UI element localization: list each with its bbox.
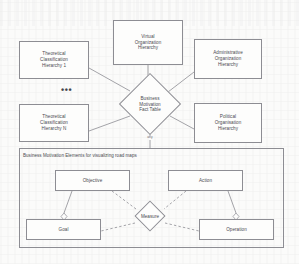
node-label: Objective — [83, 178, 103, 184]
node-label: Operation — [226, 227, 247, 233]
edge-tchn-to-fact — [89, 116, 130, 131]
node-label: VirtualOrganizationHierarchy — [135, 34, 162, 51]
edge-tch1-to-fact — [89, 68, 130, 91]
node-political-organisation-hierarchy[interactable]: PoliticalOrganisationHierarchy — [194, 103, 262, 143]
connector-cardinality-label: any — [142, 135, 158, 139]
node-theoretical-classification-hierarchy-1[interactable]: TheoreticalClassificationHierarchy 1 — [19, 41, 89, 79]
node-theoretical-classification-hierarchy-n[interactable]: TheoreticalClassificationHierarchy N — [19, 104, 89, 142]
node-action[interactable]: Action — [168, 170, 243, 191]
node-goal[interactable]: Goal — [26, 219, 101, 240]
edge-political-org-to-fact — [170, 116, 194, 129]
node-administrative-organization-hierarchy[interactable]: AdministrativeOrganizationHierarchy — [194, 39, 262, 79]
ellipsis-indicator: ••• — [61, 86, 72, 95]
node-operation[interactable]: Operation — [199, 219, 274, 240]
node-label: PoliticalOrganisationHierarchy — [215, 114, 242, 131]
container-title: Business Motivation Elements for visuali… — [23, 153, 137, 158]
node-objective[interactable]: Objective — [55, 170, 130, 191]
node-label: Action — [199, 178, 212, 184]
edge-admin-org-to-fact — [168, 72, 194, 92]
node-label: TheoreticalClassificationHierarchy N — [40, 114, 68, 131]
diagram-canvas: TheoreticalClassificationHierarchy 1 •••… — [0, 0, 299, 264]
node-label: AdministrativeOrganizationHierarchy — [213, 50, 243, 67]
node-label: TheoreticalClassificationHierarchy 1 — [40, 51, 68, 68]
node-label: Goal — [59, 227, 69, 233]
node-virtual-organization-hierarchy[interactable]: VirtualOrganizationHierarchy — [113, 20, 183, 65]
